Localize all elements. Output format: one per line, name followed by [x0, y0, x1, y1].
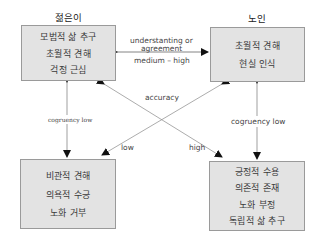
- young-box: 모범적 삶 추구 초월적 견해 걱정 근심: [21, 25, 116, 81]
- congruency-left-label: cogruency low: [48, 115, 92, 124]
- bottom-right-box: 긍정적 수용 의존적 존재 노화 부정 독립적 삶 추구: [209, 161, 305, 231]
- medium-high-label: medium – high: [134, 56, 190, 65]
- elderly-title: 노인: [227, 11, 287, 25]
- congruency-right-label: cogruency low: [231, 116, 285, 127]
- bottom-left-item: 노화 거부: [50, 206, 86, 219]
- high-label: high: [189, 143, 205, 152]
- bottom-right-item: 긍정적 수용: [235, 165, 280, 178]
- bottom-left-item: 의욕적 수긍: [46, 188, 91, 201]
- bottom-right-item: 노화 부정: [239, 198, 275, 211]
- agreement-label: agreement: [141, 44, 182, 53]
- young-item: 초월적 견해: [46, 47, 91, 60]
- low-label: low: [121, 143, 134, 152]
- young-item: 모범적 삶 추구: [40, 30, 96, 43]
- elderly-item: 초월적 견해: [235, 39, 280, 52]
- elderly-item: 현실 인식: [239, 57, 275, 70]
- bottom-right-item: 의존적 존재: [235, 181, 280, 194]
- bottom-right-item: 독립적 삶 추구: [229, 214, 285, 227]
- bottom-left-box: 비관적 견해 의욕적 수긍 노화 거부: [20, 159, 116, 229]
- young-title: 젊은이: [38, 10, 98, 24]
- bottom-left-item: 비관적 견해: [46, 169, 91, 182]
- accuracy-label: accuracy: [145, 93, 179, 102]
- elderly-box: 초월적 견해 현실 인식: [210, 27, 305, 82]
- young-item: 걱정 근심: [50, 63, 86, 76]
